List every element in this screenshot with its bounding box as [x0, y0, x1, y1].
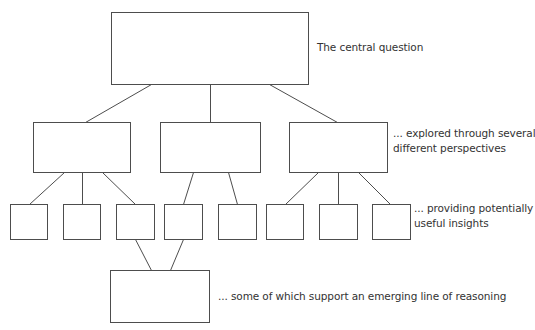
label-insights-line-1: ... providing potentially	[414, 201, 533, 216]
perspective-box-3	[290, 123, 388, 173]
insight-box-7	[320, 205, 358, 240]
label-perspectives-line-2: different perspectives	[393, 141, 506, 156]
edge-perspective-1-to-insight-3	[103, 173, 136, 205]
insight-box-1	[11, 205, 48, 240]
edge-perspective-2-to-insight-4	[184, 173, 194, 205]
edge-insight-4-to-reasoning	[171, 240, 184, 271]
nodes	[11, 13, 411, 323]
perspective-box-1	[34, 123, 131, 173]
edge-perspective-2-to-insight-5	[229, 173, 238, 205]
insight-box-8	[373, 205, 411, 240]
edge-central-to-perspective-3	[270, 85, 338, 123]
insight-box-2	[64, 205, 101, 240]
insight-box-4	[165, 205, 203, 240]
edge-insight-3-to-reasoning	[136, 240, 152, 271]
insight-box-6	[267, 205, 304, 240]
edge-perspective-3-to-insight-8	[359, 173, 391, 205]
insight-box-3	[117, 205, 155, 240]
insight-box-5	[219, 205, 257, 240]
label-insights-line-2: useful insights	[414, 216, 489, 231]
edge-perspective-3-to-insight-6	[286, 173, 319, 205]
central-question-box	[112, 13, 309, 85]
edge-central-to-perspective-1	[86, 85, 152, 123]
label-line-of-reasoning: ... some of which support an emerging li…	[218, 289, 506, 304]
label-central-question: The central question	[317, 40, 423, 55]
perspective-box-2	[161, 123, 261, 173]
edges	[30, 85, 391, 271]
line-of-reasoning-box	[111, 271, 210, 323]
edge-perspective-1-to-insight-1	[30, 173, 65, 205]
label-perspectives-line-1: ... explored through several	[393, 126, 535, 141]
